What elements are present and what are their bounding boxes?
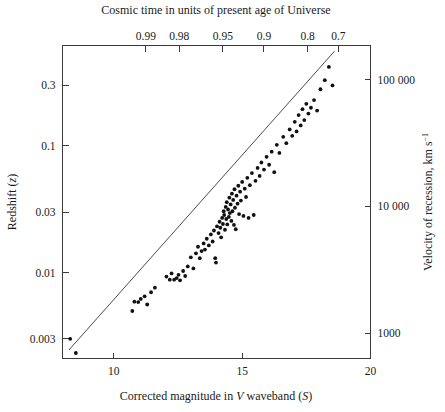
data-point — [214, 261, 218, 265]
top-tick-label: 0.9 — [257, 30, 272, 42]
left-axis-ticks — [63, 85, 69, 338]
data-point — [229, 203, 233, 207]
data-point — [192, 266, 196, 270]
data-point — [304, 102, 308, 106]
top-tick-label: 0.95 — [213, 30, 233, 42]
hubble-diagram-figure: Cosmic time in units of present age of U… — [0, 0, 445, 412]
data-point — [196, 245, 200, 249]
data-point — [143, 294, 147, 298]
data-point — [217, 231, 221, 235]
data-point — [327, 65, 331, 69]
data-point — [200, 249, 204, 253]
data-point — [219, 235, 223, 239]
data-point — [209, 233, 213, 237]
data-point — [222, 213, 226, 217]
right-tick-label: 10 000 — [378, 200, 410, 212]
data-point — [256, 166, 260, 170]
top-axis-title: Cosmic time in units of present age of U… — [101, 3, 330, 17]
data-point — [265, 155, 269, 159]
data-point — [250, 171, 254, 175]
top-tick-label: 0.99 — [136, 30, 156, 42]
data-point — [233, 206, 237, 210]
data-point — [130, 309, 134, 313]
data-point — [236, 202, 240, 206]
data-point — [277, 151, 281, 155]
scatter-data-points — [68, 65, 334, 355]
left-tick-label: 0.03 — [35, 206, 55, 218]
data-point — [177, 273, 181, 277]
data-point — [260, 161, 264, 165]
data-point — [272, 170, 276, 174]
data-point — [186, 264, 190, 268]
bottom-tick-label: 15 — [236, 365, 248, 377]
data-point — [218, 220, 222, 224]
data-point — [221, 222, 225, 226]
data-point — [244, 195, 248, 199]
data-point — [170, 272, 174, 276]
data-point — [136, 300, 140, 304]
left-tick-label: 0.01 — [35, 267, 55, 279]
data-point — [242, 214, 246, 218]
data-point — [194, 251, 198, 255]
plot-canvas: Cosmic time in units of present age of U… — [0, 0, 445, 412]
data-point — [189, 255, 193, 259]
bottom-axis-tick-labels: 101520 — [108, 365, 376, 377]
data-point — [240, 180, 244, 184]
data-point — [247, 216, 251, 220]
right-tick-label: 1000 — [378, 327, 401, 339]
data-point — [275, 143, 279, 147]
data-point — [312, 98, 316, 102]
data-point — [68, 337, 72, 341]
data-point — [225, 223, 229, 227]
left-axis-tick-labels: 0.0030.010.030.10.3 — [30, 79, 56, 344]
data-point — [301, 107, 305, 111]
data-point — [139, 297, 143, 301]
data-point — [231, 209, 235, 213]
data-point — [227, 196, 231, 200]
data-point — [181, 269, 185, 273]
data-point — [297, 113, 301, 117]
data-point — [284, 141, 288, 145]
top-axis-ticks — [146, 46, 338, 52]
data-point — [230, 192, 234, 196]
data-point — [245, 176, 249, 180]
data-point — [74, 351, 78, 355]
data-point — [295, 130, 299, 134]
left-axis-title: Redshift (z) — [5, 174, 19, 230]
data-point — [238, 190, 242, 194]
top-tick-label: 0.8 — [300, 30, 315, 42]
data-point — [203, 248, 207, 252]
data-point — [309, 106, 313, 110]
data-point — [232, 223, 236, 227]
data-point — [202, 242, 206, 246]
data-point — [231, 198, 235, 202]
data-point — [281, 135, 285, 139]
data-point — [248, 183, 252, 187]
data-point — [270, 150, 274, 154]
data-point — [227, 215, 231, 219]
data-point — [211, 240, 215, 244]
data-point — [299, 124, 303, 128]
top-tick-label: 0.98 — [169, 30, 189, 42]
data-point — [212, 229, 216, 233]
data-point — [226, 208, 230, 212]
data-point — [149, 290, 153, 294]
data-point — [262, 168, 266, 172]
data-point — [178, 278, 182, 282]
right-axis-ticks — [365, 80, 371, 333]
data-point — [165, 275, 169, 279]
data-point — [235, 194, 239, 198]
data-point — [175, 276, 179, 280]
data-point — [237, 212, 241, 216]
bottom-tick-label: 10 — [108, 365, 120, 377]
data-point — [225, 200, 229, 204]
plot-frame — [63, 46, 371, 359]
data-point — [258, 174, 262, 178]
data-point — [315, 109, 319, 113]
data-point — [215, 224, 219, 228]
data-point — [153, 286, 157, 290]
data-point — [290, 134, 294, 138]
data-point — [168, 278, 172, 282]
data-point — [223, 228, 227, 232]
data-point — [306, 112, 310, 116]
